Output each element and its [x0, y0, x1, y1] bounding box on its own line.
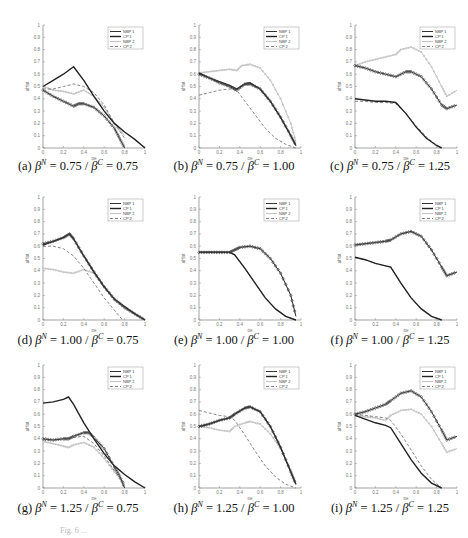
legend: NBP 1CP 1NBP 2CP 2 — [108, 367, 143, 389]
x-tick-label: 0.4 — [393, 490, 400, 495]
series-nbp-1 — [42, 431, 125, 488]
y-tick-label: 0.4 — [346, 268, 353, 273]
y-tick-label: 0.3 — [190, 281, 197, 286]
y-tick-label: 0.5 — [34, 256, 41, 261]
x-tick-label: 0 — [354, 150, 357, 155]
y-tick-label: 0.5 — [346, 424, 353, 429]
legend-entry: CP 2 — [123, 384, 133, 389]
x-tick-label: 0.4 — [237, 490, 244, 495]
chart-c: 00.10.20.30.40.50.60.70.80.9100.20.40.60… — [312, 0, 468, 160]
y-tick-label: 0.4 — [34, 436, 41, 441]
y-tick-label: 0 — [349, 318, 352, 323]
y-tick-label: 0.6 — [190, 412, 197, 417]
y-tick-label: 0.7 — [346, 231, 353, 236]
x-tick-label: 0 — [198, 150, 201, 155]
y-tick-label: 0.7 — [346, 59, 353, 64]
x-tick-label: 0.6 — [413, 322, 420, 327]
x-tick-label: 0.8 — [433, 150, 440, 155]
y-tick-label: 0 — [193, 146, 196, 151]
y-tick-label: 0.9 — [190, 35, 197, 40]
series-cp-2 — [355, 257, 442, 320]
legend-entry: CP 2 — [279, 44, 289, 49]
legend: NBP 1CP 1NBP 2CP 2 — [420, 27, 455, 49]
y-tick-label: 0.6 — [346, 412, 353, 417]
x-tick-label: 0.4 — [81, 150, 88, 155]
y-tick-label: 0.8 — [346, 219, 353, 224]
y-tick-label: 0.1 — [190, 473, 197, 478]
y-tick-label: 0.3 — [34, 109, 41, 114]
y-tick-label: 0.5 — [34, 84, 41, 89]
chart-h: 00.10.20.30.40.50.60.70.80.9100.20.40.60… — [156, 340, 312, 500]
legend: NBP 1CP 1NBP 2CP 2 — [264, 27, 299, 49]
series-cp-1 — [355, 99, 442, 148]
legend: NBP 1CP 1NBP 2CP 2 — [420, 367, 455, 389]
series-cp-1 — [43, 234, 145, 320]
x-tick-label: 0.2 — [216, 322, 223, 327]
legend-entry: CP 2 — [279, 384, 289, 389]
figure-grid: 00.10.20.30.40.50.60.70.80.9100.20.40.60… — [0, 0, 468, 520]
x-tick-label: 0.2 — [216, 150, 223, 155]
series-nbp-1 — [198, 73, 296, 146]
y-tick-label: 0.3 — [190, 109, 197, 114]
y-tick-label: 0 — [349, 146, 352, 151]
x-tick-label: 0.4 — [393, 150, 400, 155]
y-tick-label: 0.8 — [346, 387, 353, 392]
subplot-h: 00.10.20.30.40.50.60.70.80.9100.20.40.60… — [156, 340, 312, 510]
series-cp-1 — [199, 407, 296, 485]
x-tick-label: 0.2 — [372, 322, 379, 327]
subplot-e: 00.10.20.30.40.50.60.70.80.9100.20.40.60… — [156, 172, 312, 342]
x-tick-label: 1 — [144, 490, 147, 495]
y-tick-label: 0.9 — [190, 207, 197, 212]
y-tick-label: 0.5 — [34, 424, 41, 429]
y-tick-label: 0.3 — [34, 449, 41, 454]
x-tick-label: 0.8 — [121, 322, 128, 327]
y-tick-label: 0.4 — [190, 96, 197, 101]
series-cp-2 — [199, 252, 296, 320]
x-tick-label: 1 — [300, 322, 303, 327]
series-nbp-2 — [42, 85, 125, 135]
series-cp-2 — [355, 101, 442, 148]
legend: NBP 1CP 1NBP 2CP 2 — [108, 27, 143, 49]
x-tick-label: 0.2 — [372, 150, 379, 155]
x-tick-label: 1 — [456, 490, 459, 495]
y-tick-label: 0.7 — [34, 59, 41, 64]
y-axis-label: uHat — [181, 81, 186, 91]
subplot-b: 00.10.20.30.40.50.60.70.80.9100.20.40.60… — [156, 0, 312, 170]
y-tick-label: 0.9 — [346, 375, 353, 380]
series-nbp-1 — [198, 405, 296, 484]
y-tick-label: 0 — [37, 146, 40, 151]
y-tick-label: 0.2 — [346, 121, 353, 126]
y-tick-label: 0.9 — [346, 35, 353, 40]
y-tick-label: 0.5 — [190, 424, 197, 429]
x-tick-label: 0.4 — [237, 322, 244, 327]
y-tick-label: 0.4 — [346, 96, 353, 101]
series-nbp-2 — [198, 63, 296, 142]
caption-g: (g) βN = 1.25 / βC = 0.75 — [0, 500, 156, 516]
y-axis-label: uHat — [25, 81, 30, 91]
x-tick-label: 0.4 — [237, 150, 244, 155]
y-tick-label: 0.2 — [190, 461, 197, 466]
x-tick-label: 0.8 — [277, 490, 284, 495]
y-tick-label: 0.2 — [190, 121, 197, 126]
y-tick-label: 0.2 — [346, 461, 353, 466]
y-tick-label: 0.2 — [34, 461, 41, 466]
y-axis-label: uHat — [337, 81, 342, 91]
y-tick-label: 0.5 — [346, 84, 353, 89]
x-tick-label: 0.8 — [433, 490, 440, 495]
y-tick-label: 0.2 — [190, 293, 197, 298]
y-tick-label: 0.6 — [190, 72, 197, 77]
y-tick-label: 1 — [349, 363, 352, 368]
legend: NBP 1CP 1NBP 2CP 2 — [108, 199, 143, 221]
series-nbp-1 — [354, 389, 457, 441]
x-tick-label: 0.2 — [372, 490, 379, 495]
x-tick-label: 0.6 — [413, 150, 420, 155]
y-tick-label: 0.5 — [346, 256, 353, 261]
y-tick-label: 1 — [37, 363, 40, 368]
subplot-i: 00.10.20.30.40.50.60.70.80.9100.20.40.60… — [312, 340, 468, 510]
x-tick-label: 0.2 — [60, 322, 67, 327]
y-tick-label: 0.6 — [34, 412, 41, 417]
y-tick-label: 0.8 — [190, 387, 197, 392]
y-tick-label: 0.9 — [34, 207, 41, 212]
legend: NBP 1CP 1NBP 2CP 2 — [420, 199, 455, 221]
y-tick-label: 0.3 — [346, 109, 353, 114]
